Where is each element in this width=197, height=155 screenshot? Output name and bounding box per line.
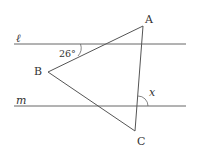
vertex-label-a: A: [144, 13, 154, 26]
triangle-abc: [48, 26, 143, 131]
angle-26-label: 26°: [59, 48, 76, 59]
vertex-label-c: C: [137, 135, 145, 148]
angle-26-arc: [78, 44, 81, 56]
angle-x-label: x: [149, 86, 156, 99]
angle-x-arc: [138, 96, 148, 106]
vertex-label-b: B: [34, 65, 42, 78]
line-l-label: ℓ: [16, 32, 21, 45]
line-m-label: m: [16, 94, 26, 107]
geometry-diagram: A B C ℓ m 26° x: [0, 0, 197, 155]
